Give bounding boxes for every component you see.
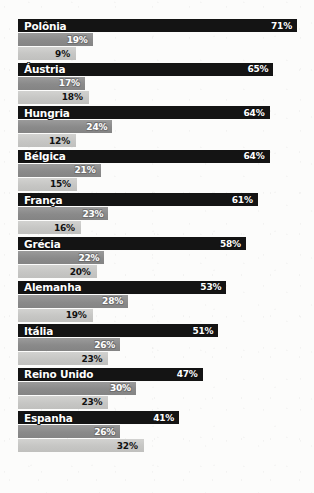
bar-row: Áustria65% xyxy=(18,63,314,76)
bar-value-label: 61% xyxy=(232,195,253,205)
bar-row: 32% xyxy=(18,439,314,452)
bar-series-3: 23% xyxy=(18,352,108,365)
bar-series-3: 16% xyxy=(18,221,81,234)
bar-value-label: 65% xyxy=(247,64,268,74)
bar-series-3: 15% xyxy=(18,178,77,191)
bar-row: Reino Unido47% xyxy=(18,368,314,381)
bar-row: França61% xyxy=(18,193,314,206)
bar-value-label: 64% xyxy=(244,151,265,161)
bar-series-1: Polônia71% xyxy=(18,19,297,32)
bar-row: 23% xyxy=(18,207,314,220)
bar-value-label: 12% xyxy=(49,136,70,146)
bar-series-1: Alemanha53% xyxy=(18,281,226,294)
bar-value-label: 64% xyxy=(244,108,265,118)
bar-row: 28% xyxy=(18,295,314,308)
bar-value-label: 19% xyxy=(67,35,88,45)
country-label: Reino Unido xyxy=(24,368,93,380)
bar-row: 23% xyxy=(18,396,314,409)
bar-row: 18% xyxy=(18,91,314,104)
bar-series-2: 23% xyxy=(18,207,108,220)
bar-series-3: 9% xyxy=(18,47,76,60)
bar-row: 23% xyxy=(18,352,314,365)
bar-series-2: 22% xyxy=(18,251,104,264)
bar-group: França61%23%16% xyxy=(18,193,314,234)
bar-row: 15% xyxy=(18,178,314,191)
country-label: Polônia xyxy=(24,20,66,32)
bar-row: Grécia58% xyxy=(18,237,314,250)
bar-series-1: Áustria65% xyxy=(18,63,273,76)
bar-series-2: 24% xyxy=(18,120,112,133)
bar-value-label: 15% xyxy=(50,179,71,189)
bar-value-label: 17% xyxy=(59,78,80,88)
bar-series-1: Reino Unido47% xyxy=(18,368,203,381)
bar-series-2: 30% xyxy=(18,382,136,395)
bar-series-1: Bélgica64% xyxy=(18,150,270,163)
bar-value-label: 18% xyxy=(62,92,83,102)
bar-group: Áustria65%17%18% xyxy=(18,63,314,104)
bar-series-2: 26% xyxy=(18,338,120,351)
country-label: Bélgica xyxy=(24,150,66,162)
bar-row: 19% xyxy=(18,33,314,46)
bar-row: 24% xyxy=(18,120,314,133)
bar-value-label: 32% xyxy=(117,441,138,451)
bar-series-2: 21% xyxy=(18,164,101,177)
bar-row: 22% xyxy=(18,251,314,264)
bar-row: Espanha41% xyxy=(18,411,314,424)
bar-row: Itália51% xyxy=(18,324,314,337)
bar-value-label: 20% xyxy=(70,267,91,277)
bar-row: Polônia71% xyxy=(18,19,314,32)
bar-row: Bélgica64% xyxy=(18,150,314,163)
bar-series-2: 26% xyxy=(18,425,120,438)
bar-group: Alemanha53%28%19% xyxy=(18,281,314,322)
bar-value-label: 23% xyxy=(82,209,103,219)
bar-value-label: 9% xyxy=(55,49,70,59)
bar-group: Itália51%26%23% xyxy=(18,324,314,365)
bar-value-label: 51% xyxy=(192,326,213,336)
bar-series-3: 23% xyxy=(18,396,108,409)
bar-group: Bélgica64%21%15% xyxy=(18,150,314,191)
country-label: França xyxy=(24,194,62,206)
bar-series-2: 19% xyxy=(18,33,93,46)
bar-value-label: 28% xyxy=(102,296,123,306)
bar-value-label: 24% xyxy=(86,122,107,132)
bar-value-label: 21% xyxy=(75,165,96,175)
bar-row: 26% xyxy=(18,425,314,438)
bar-series-1: Itália51% xyxy=(18,324,218,337)
country-label: Alemanha xyxy=(24,281,81,293)
bar-group: Hungria64%24%12% xyxy=(18,106,314,147)
bar-group: Polônia71%19%9% xyxy=(18,19,314,60)
bar-row: 17% xyxy=(18,77,314,90)
bar-row: 20% xyxy=(18,265,314,278)
bar-series-1: Espanha41% xyxy=(18,411,179,424)
country-label: Espanha xyxy=(24,412,73,424)
bar-series-3: 20% xyxy=(18,265,97,278)
bar-row: 30% xyxy=(18,382,314,395)
bar-value-label: 53% xyxy=(200,282,221,292)
bar-series-3: 32% xyxy=(18,439,144,452)
bar-series-3: 18% xyxy=(18,91,89,104)
bar-value-label: 47% xyxy=(177,369,198,379)
bar-series-3: 12% xyxy=(18,134,76,147)
bar-value-label: 58% xyxy=(220,239,241,249)
bar-row: Alemanha53% xyxy=(18,281,314,294)
bar-value-label: 30% xyxy=(110,383,131,393)
bar-value-label: 23% xyxy=(81,397,102,407)
chart-page: Polônia71%19%9%Áustria65%17%18%Hungria64… xyxy=(0,0,314,493)
bar-value-label: 26% xyxy=(94,427,115,437)
bar-group: Reino Unido47%30%23% xyxy=(18,368,314,409)
bar-row: 16% xyxy=(18,221,314,234)
bar-series-1: Hungria64% xyxy=(18,106,270,119)
bar-row: 26% xyxy=(18,338,314,351)
country-label: Grécia xyxy=(24,238,61,250)
bar-row: 9% xyxy=(18,47,314,60)
bar-row: 12% xyxy=(18,134,314,147)
grouped-bar-chart: Polônia71%19%9%Áustria65%17%18%Hungria64… xyxy=(0,0,314,493)
bar-value-label: 22% xyxy=(79,253,100,263)
bar-value-label: 23% xyxy=(81,354,102,364)
bar-value-label: 16% xyxy=(54,223,75,233)
bar-series-2: 17% xyxy=(18,77,85,90)
bar-row: Hungria64% xyxy=(18,106,314,119)
bar-series-1: França61% xyxy=(18,193,258,206)
bar-group: Grécia58%22%20% xyxy=(18,237,314,278)
country-label: Itália xyxy=(24,325,53,337)
